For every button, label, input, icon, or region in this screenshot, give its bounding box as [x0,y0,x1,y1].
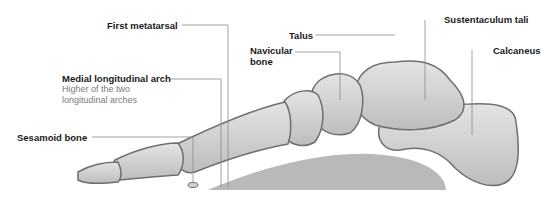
medial-arch-description-line-2: longitudinal arches [62,95,137,106]
sesamoid-bone [188,183,198,188]
distal-phalanx-bone [78,162,121,183]
arch-shape [208,154,446,190]
proximal-phalanx-bone [112,143,183,180]
medial-arch-description-line-1: Higher of the two [62,84,130,95]
talus-bone [354,61,464,130]
label-sustentaculum-tali: Sustentaculum tali [444,14,528,25]
label-talus: Talus [289,30,313,41]
label-first-metatarsal: First metatarsal [107,20,178,31]
label-medial-longitudinal-arch: Medial longitudinal arch [62,73,171,84]
foot-arch-diagram: First metatarsal Medial longitudinal arc… [0,0,552,198]
label-calcaneus: Calcaneus [493,45,541,56]
label-sesamoid-bone: Sesamoid bone [17,132,87,143]
label-navicular-bone-line-1: Navicular [250,45,293,56]
label-navicular-bone-line-2: bone [250,56,273,67]
